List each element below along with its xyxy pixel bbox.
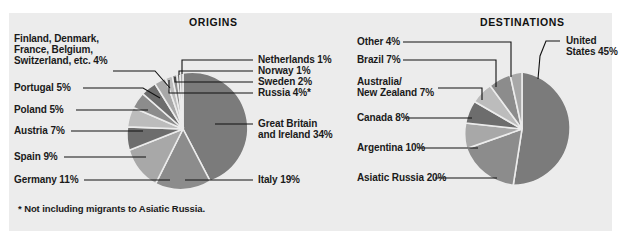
label-canada: Canada 8% [357, 112, 409, 123]
label-australia-nz-line2: New Zealand 7% [357, 87, 434, 98]
origins-pie [127, 72, 248, 189]
migration-pie-chart-figure: ORIGINS DESTINATIONS Finland, Denmark, F… [0, 0, 621, 238]
label-argentina: Argentina 10% [357, 142, 425, 153]
label-asiatic-russia: Asiatic Russia 20% [357, 172, 446, 183]
label-australia-nz-line1: Australia/ [357, 76, 402, 87]
label-italy: Italy 19% [258, 174, 300, 185]
label-austria: Austria 7% [14, 125, 65, 136]
label-norway: Norway 1% [258, 65, 310, 76]
chart-title-destinations: DESTINATIONS [480, 16, 565, 28]
leader-united-states [538, 41, 560, 79]
label-russia: Russia 4%* [258, 87, 311, 98]
label-other-europe-line2: France, Belgium, [14, 44, 93, 55]
label-great-britain-line2: and Ireland 34% [258, 129, 333, 140]
label-netherlands: Netherlands 1% [258, 54, 332, 65]
label-sweden: Sweden 2% [258, 76, 312, 87]
label-poland: Poland 5% [14, 104, 64, 115]
label-germany: Germany 11% [14, 174, 79, 185]
label-portugal: Portugal 5% [14, 82, 71, 93]
label-united-states-line1: United [566, 35, 597, 46]
label-great-britain-line1: Great Britain [258, 118, 317, 129]
footnote: * Not including migrants to Asiatic Russ… [18, 203, 205, 214]
label-brazil: Brazil 7% [357, 54, 401, 65]
label-other: Other 4% [357, 36, 400, 47]
leader-australia-nz [438, 88, 482, 100]
label-other-europe-line3: Switzerland, etc. 4% [14, 55, 108, 66]
label-other-europe-line1: Finland, Denmark, [14, 33, 99, 44]
destinations-pie [465, 72, 570, 185]
leader-brazil [403, 60, 496, 87]
chart-title-origins: ORIGINS [189, 16, 238, 28]
label-spain: Spain 9% [14, 151, 58, 162]
label-united-states-line2: States 45% [566, 46, 618, 57]
